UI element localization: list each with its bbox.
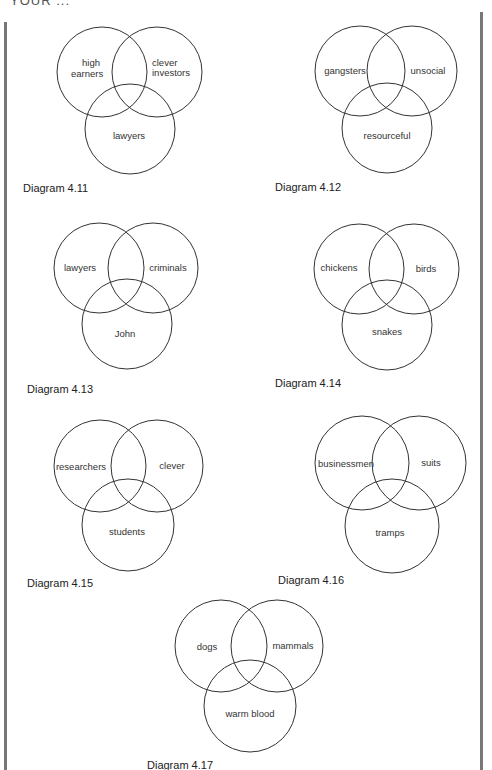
- circle-suits: [372, 416, 466, 510]
- circle-tramps: [345, 479, 439, 573]
- x-mark-icon: [359, 95, 369, 105]
- label-gangsters: gangsters: [324, 65, 366, 76]
- caption-diagram-4-16: Diagram 4.16: [278, 574, 344, 586]
- diagram-4-17: dogs mammals warm blood Diagram 4.17: [147, 600, 323, 770]
- x-mark-icon: [383, 286, 393, 296]
- x-mark-icon: [82, 440, 92, 450]
- diagram-4-15: researchers clever students Diagram 4.15: [27, 420, 203, 589]
- label-criminals: criminals: [149, 262, 187, 273]
- x-mark-icon: [122, 282, 132, 292]
- circle-lawyers: [85, 84, 175, 174]
- label-snakes: snakes: [372, 326, 402, 337]
- x-mark-icon: [99, 293, 109, 303]
- diagram-4-12: gangsters unsocial resourceful Diagram 4…: [275, 26, 457, 193]
- label-students: students: [109, 526, 145, 537]
- diagram-4-13: lawyers criminals John Diagram 4.13: [27, 223, 198, 395]
- label-earners: earners: [71, 68, 103, 79]
- circle-snakes: [342, 280, 432, 370]
- caption-diagram-4-11: Diagram 4.11: [23, 182, 88, 194]
- caption-diagram-4-13: Diagram 4.13: [27, 383, 93, 395]
- label-lawyers: lawyers: [113, 130, 145, 141]
- caption-diagram-4-12: Diagram 4.12: [275, 181, 341, 193]
- x-mark-icon: [120, 259, 130, 269]
- x-mark-icon: [360, 293, 370, 303]
- label-chickens: chickens: [321, 262, 358, 273]
- x-mark-icon: [380, 64, 390, 74]
- label-lawyers: lawyers: [64, 262, 96, 273]
- diagram-4-14: chickens birds snakes Diagram 4.14: [275, 224, 459, 389]
- label-clever: clever: [159, 460, 184, 471]
- x-mark-icon: [343, 46, 353, 56]
- label-suits: suits: [421, 457, 441, 468]
- diagram-4-11: high earners clever investors lawyers Di…: [23, 27, 202, 194]
- x-mark-icon: [342, 244, 352, 254]
- x-mark-icon: [345, 439, 355, 449]
- circle-birds: [369, 224, 459, 314]
- diagram-4-16: businessmen suits tramps Diagram 4.16: [278, 416, 466, 586]
- label-mammals: mammals: [272, 640, 313, 651]
- label-researchers: researchers: [56, 461, 106, 472]
- label-investors: investors: [152, 67, 190, 78]
- label-john: John: [115, 328, 136, 339]
- x-mark-icon: [204, 624, 214, 634]
- label-resourceful: resourceful: [364, 130, 411, 141]
- venn-diagrams-canvas: high earners clever investors lawyers Di…: [0, 0, 492, 770]
- circle-john: [82, 279, 172, 369]
- caption-diagram-4-14: Diagram 4.14: [275, 377, 341, 389]
- circle-warm-blood: [204, 660, 296, 752]
- x-mark-icon: [361, 495, 371, 505]
- caption-diagram-4-17: Diagram 4.17: [147, 759, 213, 770]
- label-businessmen: businessmen: [318, 458, 374, 469]
- x-mark-icon: [282, 625, 292, 635]
- circle-students: [82, 479, 174, 571]
- label-dogs: dogs: [197, 641, 218, 652]
- circle-resourceful: [342, 83, 432, 173]
- circle-dogs: [175, 600, 267, 692]
- label-unsocial: unsocial: [411, 65, 446, 76]
- x-mark-icon: [145, 96, 155, 106]
- label-birds: birds: [416, 263, 437, 274]
- x-mark-icon: [124, 149, 134, 159]
- label-tramps: tramps: [375, 527, 404, 538]
- label-high: high: [82, 57, 100, 68]
- x-mark-icon: [222, 673, 232, 683]
- circle-clever: [111, 420, 203, 512]
- x-mark-icon: [386, 483, 396, 493]
- label-warm-blood: warm blood: [224, 708, 274, 719]
- caption-diagram-4-15: Diagram 4.15: [27, 577, 93, 589]
- x-mark-icon: [243, 636, 253, 646]
